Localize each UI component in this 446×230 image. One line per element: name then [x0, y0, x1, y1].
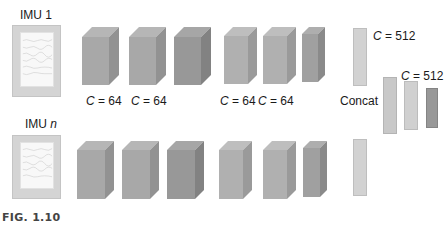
channel-symbol: C: [131, 94, 140, 108]
conv-block: [167, 141, 204, 199]
waveform-icon: [21, 33, 53, 86]
channel-value: = 64: [140, 94, 167, 108]
waveform-icon: [21, 143, 53, 188]
imu-1-label-index: 1: [45, 8, 52, 22]
cuboid-icon: [263, 141, 296, 199]
channel-symbol: C: [220, 94, 229, 108]
conv-block: [263, 27, 296, 84]
fc-layer-bar: [383, 77, 397, 134]
conv-block: [122, 141, 159, 199]
conv-block: [174, 27, 211, 85]
channel-symbol: C: [86, 94, 95, 108]
cuboid-icon: [122, 141, 159, 199]
channel-label: C = 64: [220, 94, 256, 108]
cuboid-icon: [263, 27, 296, 84]
conv-block: [303, 141, 327, 197]
channel-value: = 512: [382, 29, 416, 43]
imu-n-signal-frame: [12, 135, 61, 199]
channel-symbol: C: [373, 29, 382, 43]
fc-layer-bar: [426, 88, 438, 128]
imu-n-label-index: n: [50, 117, 57, 131]
imu-n-signal-plot: [20, 142, 54, 189]
cuboid-icon: [224, 27, 257, 84]
channel-value: = 64: [229, 94, 256, 108]
cuboid-icon: [303, 141, 327, 197]
fc-layer-bar: [404, 81, 418, 130]
concat-channel-label: C = 512: [373, 29, 415, 43]
imu-1-label-main: IMU: [20, 8, 45, 22]
concat-feature-bar: [353, 28, 367, 86]
conv-block: [263, 141, 296, 199]
imu-1-signal-plot: [20, 32, 54, 87]
conv-block: [219, 141, 252, 199]
cuboid-icon: [174, 27, 211, 85]
conv-block: [129, 27, 166, 85]
channel-symbol: C: [258, 94, 267, 108]
concat-feature-bar: [353, 139, 367, 196]
imu-1-label: IMU 1: [20, 8, 52, 22]
fc-channel-label: C = 512: [401, 69, 443, 83]
cuboid-icon: [82, 27, 119, 85]
cuboid-icon: [219, 141, 252, 199]
channel-symbol: C: [401, 69, 410, 83]
channel-label: C = 64: [258, 94, 294, 108]
channel-value: = 64: [95, 94, 122, 108]
imu-n-label: IMU n: [25, 117, 57, 131]
imu-1-signal-frame: [12, 25, 61, 97]
concat-label: Concat: [340, 94, 378, 108]
conv-block: [224, 27, 257, 84]
channel-value: = 512: [410, 69, 444, 83]
channel-label: C = 64: [86, 94, 122, 108]
figure-caption: FIG. 1.10: [2, 211, 60, 224]
imu-n-label-main: IMU: [25, 117, 50, 131]
channel-label: C = 64: [131, 94, 167, 108]
cuboid-icon: [77, 141, 114, 199]
cuboid-icon: [167, 141, 204, 199]
cuboid-icon: [302, 27, 325, 82]
cuboid-icon: [129, 27, 166, 85]
conv-block: [82, 27, 119, 85]
conv-block: [302, 27, 325, 82]
channel-value: = 64: [267, 94, 294, 108]
conv-block: [77, 141, 114, 199]
